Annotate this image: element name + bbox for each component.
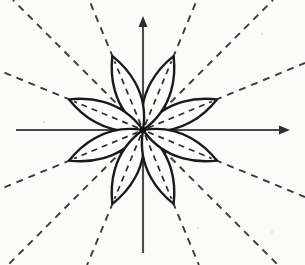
origin-point	[140, 127, 146, 133]
polar-rose-canvas	[0, 0, 305, 265]
polar-rose-figure	[0, 0, 305, 265]
